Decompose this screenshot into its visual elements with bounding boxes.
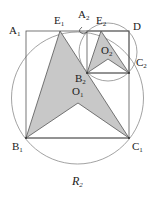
vertex-c2 xyxy=(128,72,130,74)
vertex-c1 xyxy=(128,137,130,139)
geometry-figure: A1 E1 A2 E2 D O2 C2 B2 O1 B1 C1 R2 xyxy=(0,0,158,197)
label-c1: C1 xyxy=(132,140,143,154)
label-d: D xyxy=(133,20,141,32)
label-b1: B1 xyxy=(12,140,23,154)
label-a1: A1 xyxy=(9,24,21,38)
vertex-b2 xyxy=(86,72,88,74)
label-e2: E2 xyxy=(96,14,107,28)
label-a2: A2 xyxy=(78,8,90,22)
label-e1: E1 xyxy=(54,14,65,28)
vertex-b1 xyxy=(25,137,27,139)
label-c2: C2 xyxy=(136,56,147,70)
figure-caption: R2 xyxy=(71,174,83,189)
a2-pointer-arrow xyxy=(79,27,87,34)
